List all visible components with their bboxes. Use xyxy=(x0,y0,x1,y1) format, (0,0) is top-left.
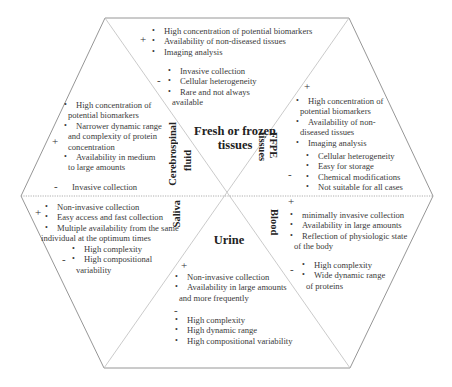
urine-pros-list: Non-invasive collection Availability in … xyxy=(173,272,287,303)
fresh-frozen-plus-sign: + xyxy=(140,34,146,45)
list-item: and more frequently xyxy=(173,293,287,303)
list-item: Cellular heterogeneity xyxy=(304,151,403,161)
ffpe-minus-sign: - xyxy=(288,169,292,180)
csf-title-line1: Cerebrospinal xyxy=(167,122,178,186)
list-item: variability xyxy=(70,265,152,275)
csf-pros-list: High concentration of potential biomarke… xyxy=(62,100,162,173)
blood-cons-list: High complexity Wide dynamic range of pr… xyxy=(300,260,385,291)
csf-plus-sign: + xyxy=(52,136,58,147)
urine-title: Urine xyxy=(205,233,253,247)
list-item: Multiple availability from the same xyxy=(43,223,179,233)
blood-pros-list: minimally invasive collection Availabili… xyxy=(288,210,407,252)
list-item: Chemical modifications xyxy=(304,172,403,182)
ffpe-title-line1: FFPE xyxy=(268,132,279,158)
ffpe-title-2: tissues xyxy=(257,132,268,161)
list-item: Non-invasive collection xyxy=(43,202,179,212)
fresh-frozen-minus-sign: - xyxy=(157,75,161,86)
blood-plus-sign: + xyxy=(288,196,294,207)
list-item: Imaging analysis xyxy=(150,47,312,57)
list-item: potential biomarkers xyxy=(62,110,162,120)
ffpe-title-line2: tissues xyxy=(257,132,268,161)
saliva-plus-sign: + xyxy=(35,207,41,218)
list-item: of the body xyxy=(288,241,407,251)
list-item: Easy access and fast collection xyxy=(43,212,179,222)
list-item: Invasive collection xyxy=(166,66,257,76)
list-item: Wide dynamic range xyxy=(300,270,385,280)
list-item: High compositional variability xyxy=(173,336,293,346)
urine-cons-list: High complexity High dynamic range High … xyxy=(173,315,293,346)
list-item: Invasive collection xyxy=(66,182,137,192)
list-item: minimally invasive collection xyxy=(288,210,407,220)
list-item: Cellular heterogeneity xyxy=(166,76,257,86)
csf-title: Cerebrospinal xyxy=(167,122,178,186)
list-item: High complexity xyxy=(173,315,293,325)
ffpe-plus-sign: + xyxy=(304,81,310,92)
ffpe-title: FFPE xyxy=(268,132,279,158)
list-item: individual at the optimum times xyxy=(35,233,179,243)
ffpe-cons-list: Cellular heterogeneity Easy for storage … xyxy=(304,151,403,193)
fresh-frozen-cons-list: Invasive collection Cellular heterogenei… xyxy=(166,66,257,108)
blood-title-text: Blood xyxy=(269,209,280,235)
blood-minus-sign: - xyxy=(290,264,294,275)
list-item: Reflection of physiologic state xyxy=(288,231,407,241)
list-item: Rare and not always xyxy=(166,87,257,97)
list-item: High complexity xyxy=(70,244,152,254)
list-item: Narrower dynamic range xyxy=(62,121,162,131)
saliva-pros-list: Non-invasive collection Easy access and … xyxy=(43,202,179,244)
list-item: High dynamic range xyxy=(173,325,293,335)
list-item: diseased tissues xyxy=(294,127,383,137)
list-item: High concentration of potential biomarke… xyxy=(150,26,312,36)
list-item: High concentration of xyxy=(62,100,162,110)
list-item: Availability of non-diseased tissues xyxy=(150,36,312,46)
list-item: Availability in large amounts xyxy=(173,282,287,292)
fresh-frozen-pros-list: High concentration of potential biomarke… xyxy=(150,26,312,57)
list-item: concentration xyxy=(62,142,162,152)
list-item: Non-invasive collection xyxy=(173,272,287,282)
blood-title: Blood xyxy=(269,209,280,235)
list-item: potential biomarkers xyxy=(294,106,383,116)
csf-cons-list: Invasive collection xyxy=(66,182,137,192)
list-item: Availability in large amounts xyxy=(288,220,407,230)
urine-plus-sign: + xyxy=(181,260,187,271)
list-item: High complexity xyxy=(300,260,385,270)
saliva-minus-sign: - xyxy=(62,254,66,265)
list-item: Availability of non- xyxy=(294,117,383,127)
list-item: Easy for storage xyxy=(304,161,403,171)
list-item: and complexity of protein xyxy=(62,131,162,141)
csf-title-line2: fluid xyxy=(182,150,193,171)
saliva-cons-list: High complexity High compositional varia… xyxy=(70,244,152,275)
list-item: of proteins xyxy=(300,281,385,291)
csf-minus-sign: - xyxy=(54,181,58,192)
list-item: available xyxy=(166,97,257,107)
list-item: High compositional xyxy=(70,254,152,264)
list-item: Imaging analysis xyxy=(294,138,383,148)
list-item: Not suitable for all cases xyxy=(304,182,403,192)
list-item: High concentration of xyxy=(294,96,383,106)
list-item: Availability in medium xyxy=(62,152,162,162)
list-item: to large amounts xyxy=(62,162,162,172)
ffpe-pros-list: High concentration of potential biomarke… xyxy=(294,96,383,148)
csf-title-2: fluid xyxy=(182,150,193,171)
